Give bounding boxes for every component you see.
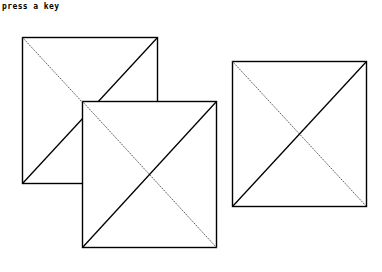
drawing-canvas [0, 0, 382, 272]
square-3 [233, 62, 367, 207]
square-2 [83, 102, 217, 248]
